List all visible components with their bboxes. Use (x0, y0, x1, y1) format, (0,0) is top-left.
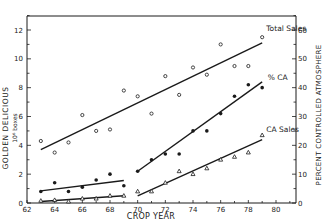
data-point-total-sales (95, 129, 98, 132)
x-tick-label: 80 (272, 206, 281, 214)
data-point-ca-sales (163, 181, 167, 185)
x-tick-label: 62 (23, 206, 32, 214)
data-point-total-sales (39, 139, 42, 142)
axes: 6264666870727476788002468101201020304050… (14, 16, 307, 214)
data-point-percent-ca (205, 129, 209, 133)
y-tick-label-right: 20 (298, 142, 307, 150)
data-point-ca-sales (80, 196, 84, 200)
data-point-percent-ca (233, 95, 237, 99)
x-tick-label: 66 (78, 206, 87, 214)
data-point-ca-sales (233, 155, 237, 159)
data-point-percent-ca (81, 185, 85, 189)
chart-container: 6264666870727476788002468101201020304050… (0, 0, 325, 223)
y-tick-label-left: 4 (19, 142, 24, 150)
data-point-percent-ca (150, 158, 154, 162)
data-point-ca-sales (205, 166, 209, 170)
y-tick-label-right: 40 (298, 84, 307, 92)
data-point-percent-ca (67, 190, 71, 194)
series-label: % CA (268, 73, 289, 82)
data-point-total-sales (233, 64, 236, 67)
data-point-percent-ca (108, 172, 112, 176)
data-point-ca-sales (260, 133, 264, 137)
y-axis-left-unit: 10⁶ boxes (11, 113, 18, 142)
data-point-total-sales (81, 113, 84, 116)
y-tick-label-right: 0 (298, 200, 302, 208)
x-tick-label: 68 (106, 206, 115, 214)
y-tick-label-left: 12 (14, 27, 23, 35)
data-point-total-sales (164, 75, 167, 78)
data-point-percent-ca (136, 169, 140, 173)
y-tick-label-right: 50 (298, 55, 307, 63)
data-point-total-sales (122, 89, 125, 92)
x-tick-label: 74 (189, 206, 198, 214)
data-point-total-sales (247, 64, 250, 67)
data-point-total-sales (178, 93, 181, 96)
x-tick-label: 76 (216, 206, 225, 214)
data-point-total-sales (67, 141, 70, 144)
data-point-ca-sales (246, 150, 250, 154)
data-point-percent-ca (53, 181, 57, 185)
data-point-percent-ca (164, 152, 168, 156)
data-point-ca-sales (136, 189, 140, 193)
data-points (39, 36, 264, 203)
data-point-ca-sales (122, 194, 126, 198)
data-point-percent-ca (122, 184, 126, 188)
data-point-percent-ca (247, 83, 251, 87)
y-tick-label-right: 10 (298, 171, 307, 179)
y-tick-label-left: 2 (19, 171, 23, 179)
series-label: CA Sales (266, 125, 299, 134)
data-point-total-sales (219, 43, 222, 46)
fit-lines (41, 43, 262, 202)
y-axis-right-label: PERCENT CONTROLLED ATMOSPHERE (315, 45, 323, 186)
data-point-total-sales (150, 112, 153, 115)
data-point-percent-ca (177, 152, 181, 156)
data-point-total-sales (191, 66, 194, 69)
data-point-percent-ca (191, 129, 195, 133)
fit-line (138, 82, 262, 171)
y-tick-label-left: 0 (19, 200, 23, 208)
series-label: Total Sales (265, 24, 306, 33)
data-point-total-sales (53, 151, 56, 154)
data-point-percent-ca (260, 86, 264, 90)
x-tick-label: 64 (50, 206, 59, 214)
x-tick-label: 78 (244, 206, 253, 214)
data-point-percent-ca (94, 178, 98, 182)
data-point-ca-sales (39, 199, 43, 203)
fit-line (41, 43, 262, 150)
data-point-ca-sales (177, 169, 181, 173)
data-point-ca-sales (53, 198, 57, 202)
chart-svg: 6264666870727476788002468101201020304050… (0, 0, 325, 223)
y-tick-label-left: 6 (19, 113, 24, 121)
fit-line (138, 140, 262, 196)
data-point-ca-sales (191, 172, 195, 176)
data-point-ca-sales (108, 194, 112, 198)
data-point-percent-ca (39, 190, 43, 194)
y-tick-label-left: 10 (14, 55, 23, 63)
data-point-total-sales (261, 36, 264, 39)
y-tick-label-left: 8 (19, 84, 23, 92)
data-point-total-sales (108, 128, 111, 131)
y-axis-left-label: GOLDEN DELICIOUS (1, 87, 10, 170)
y-tick-label-right: 30 (298, 113, 307, 121)
data-point-percent-ca (219, 112, 223, 116)
x-axis-label: CROP YEAR (127, 212, 176, 221)
data-point-total-sales (205, 73, 208, 76)
data-point-total-sales (136, 95, 139, 98)
